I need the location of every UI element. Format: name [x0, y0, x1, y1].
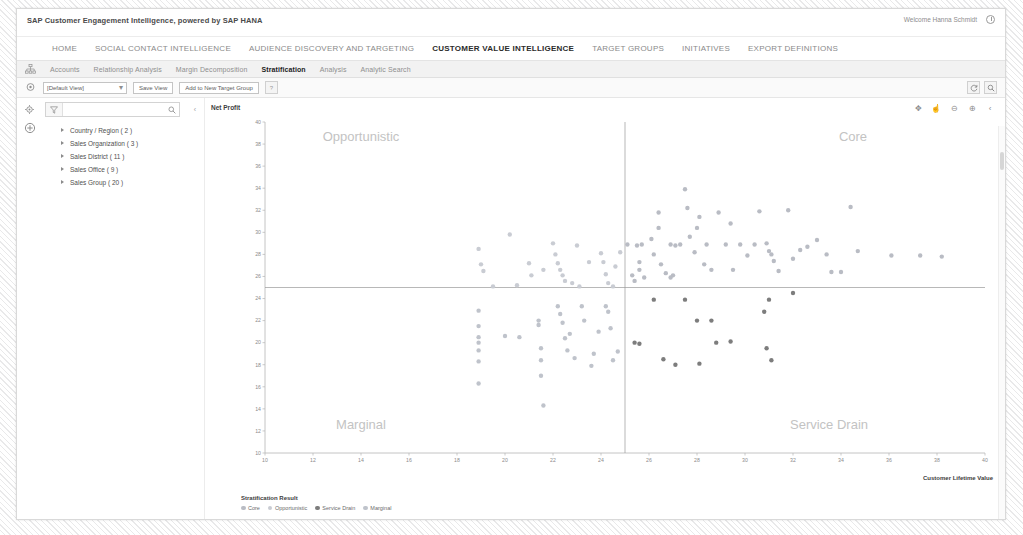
- data-point[interactable]: [601, 260, 605, 264]
- data-point[interactable]: [570, 281, 574, 285]
- data-point[interactable]: [728, 339, 732, 343]
- nav-item-4[interactable]: TARGET GROUPS: [583, 44, 673, 53]
- legend-entry-opportunistic[interactable]: Opportunistic: [268, 505, 307, 511]
- data-point[interactable]: [556, 304, 560, 308]
- tab-margin-decomposition[interactable]: Margin Decomposition: [169, 66, 255, 73]
- data-point[interactable]: [889, 253, 893, 257]
- save-view-button[interactable]: Save View: [133, 82, 173, 94]
- series-service-drain[interactable]: [632, 291, 795, 367]
- data-point[interactable]: [695, 318, 699, 322]
- data-point[interactable]: [673, 243, 677, 247]
- data-point[interactable]: [616, 349, 620, 353]
- tab-stratification[interactable]: Stratification: [255, 66, 313, 73]
- data-point[interactable]: [551, 241, 555, 245]
- data-point[interactable]: [815, 238, 819, 242]
- data-point[interactable]: [704, 242, 708, 246]
- data-point[interactable]: [724, 242, 728, 246]
- data-point[interactable]: [839, 270, 843, 274]
- data-point[interactable]: [656, 226, 660, 230]
- search-icon[interactable]: [165, 106, 179, 114]
- refresh-icon[interactable]: [967, 81, 980, 94]
- settings-gear-icon[interactable]: [22, 102, 37, 117]
- data-point[interactable]: [539, 358, 543, 362]
- data-point[interactable]: [762, 310, 766, 314]
- data-point[interactable]: [652, 252, 656, 256]
- data-point[interactable]: [491, 284, 495, 288]
- zoom-out-icon[interactable]: ⊖: [949, 104, 959, 114]
- data-point[interactable]: [829, 270, 833, 274]
- pointer-hand-icon[interactable]: ☝: [931, 104, 941, 114]
- data-point[interactable]: [692, 250, 696, 254]
- data-point[interactable]: [613, 264, 617, 268]
- data-point[interactable]: [476, 348, 480, 352]
- data-point[interactable]: [688, 235, 692, 239]
- expand-arrow-icon[interactable]: [61, 167, 66, 172]
- series-marginal[interactable]: [476, 304, 620, 408]
- data-point[interactable]: [776, 269, 780, 273]
- power-icon[interactable]: [986, 15, 995, 24]
- data-point[interactable]: [769, 252, 773, 256]
- collapse-chevron-icon[interactable]: ‹: [985, 104, 995, 114]
- tree-node[interactable]: Sales Organization ( 3 ): [61, 137, 204, 150]
- data-point[interactable]: [515, 283, 519, 287]
- data-point[interactable]: [824, 252, 828, 256]
- zoom-in-icon[interactable]: ⊕: [967, 104, 977, 114]
- data-point[interactable]: [539, 346, 543, 350]
- data-point[interactable]: [697, 215, 701, 219]
- nav-item-0[interactable]: HOME: [43, 44, 86, 53]
- data-point[interactable]: [608, 326, 612, 330]
- expand-arrow-icon[interactable]: [61, 141, 66, 146]
- data-point[interactable]: [649, 237, 653, 241]
- data-point[interactable]: [695, 226, 699, 230]
- data-point[interactable]: [640, 242, 644, 246]
- data-point[interactable]: [673, 363, 677, 367]
- data-point[interactable]: [683, 297, 687, 301]
- data-point[interactable]: [632, 279, 636, 283]
- data-point[interactable]: [791, 257, 795, 261]
- nav-item-1[interactable]: SOCIAL CONTACT INTELLIGENCE: [86, 44, 240, 53]
- legend-entry-marginal[interactable]: Marginal: [363, 505, 391, 511]
- data-point[interactable]: [604, 272, 608, 276]
- data-point[interactable]: [580, 304, 584, 308]
- data-point[interactable]: [541, 268, 545, 272]
- data-point[interactable]: [764, 346, 768, 350]
- data-point[interactable]: [503, 334, 507, 338]
- data-point[interactable]: [596, 329, 600, 333]
- data-point[interactable]: [772, 259, 776, 263]
- data-point[interactable]: [560, 321, 564, 325]
- data-point[interactable]: [539, 374, 543, 378]
- data-point[interactable]: [536, 318, 540, 322]
- nav-item-5[interactable]: INITIATIVES: [673, 44, 739, 53]
- nav-item-2[interactable]: AUDIENCE DISCOVERY AND TARGETING: [240, 44, 423, 53]
- data-point[interactable]: [563, 336, 567, 340]
- data-point[interactable]: [714, 340, 718, 344]
- data-point[interactable]: [764, 241, 768, 245]
- data-point[interactable]: [536, 323, 540, 327]
- data-point[interactable]: [635, 243, 639, 247]
- tab-analytic-search[interactable]: Analytic Search: [354, 66, 418, 73]
- data-point[interactable]: [556, 261, 560, 265]
- tree-node[interactable]: Country / Region ( 2 ): [61, 124, 204, 137]
- series-core[interactable]: [625, 187, 944, 283]
- data-point[interactable]: [637, 260, 641, 264]
- data-point[interactable]: [558, 268, 562, 272]
- data-point[interactable]: [575, 243, 579, 247]
- data-point[interactable]: [642, 275, 646, 279]
- data-point[interactable]: [558, 312, 562, 316]
- data-point[interactable]: [541, 403, 545, 407]
- data-point[interactable]: [589, 364, 593, 368]
- data-point[interactable]: [791, 291, 795, 295]
- chevron-left-icon[interactable]: ‹: [194, 106, 196, 113]
- search-settings-icon[interactable]: [984, 81, 997, 94]
- expand-arrow-icon[interactable]: [61, 128, 66, 133]
- data-point[interactable]: [637, 342, 641, 346]
- data-point[interactable]: [630, 273, 634, 277]
- data-point[interactable]: [476, 247, 480, 251]
- data-point[interactable]: [856, 249, 860, 253]
- tree-node[interactable]: Sales District ( 11 ): [61, 150, 204, 163]
- data-point[interactable]: [599, 251, 603, 255]
- data-point[interactable]: [918, 253, 922, 257]
- data-point[interactable]: [481, 269, 485, 273]
- series-opportunistic[interactable]: [476, 232, 622, 288]
- tab-accounts[interactable]: Accounts: [43, 66, 87, 73]
